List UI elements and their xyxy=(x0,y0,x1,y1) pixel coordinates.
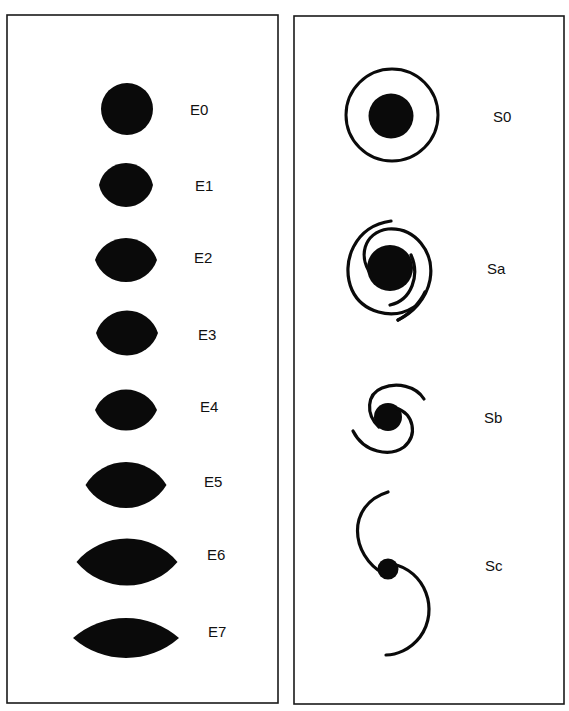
galaxy-e5-shape xyxy=(86,462,167,508)
s0-bulge xyxy=(369,94,414,139)
sa-arm-tip-bottom xyxy=(398,292,425,320)
galaxy-e2-label: E2 xyxy=(194,249,212,266)
galaxy-e0-shape xyxy=(101,83,153,135)
sc-bulge xyxy=(378,559,399,580)
galaxy-sc-label: Sc xyxy=(485,557,503,574)
elliptical-shapes xyxy=(73,83,179,658)
spiral-labels: S0SaSbSc xyxy=(484,108,511,574)
galaxy-e1-shape xyxy=(99,163,153,207)
spiral-panel: S0SaSbSc xyxy=(294,16,564,704)
galaxy-sa-shape xyxy=(348,221,431,320)
galaxy-sa-label: Sa xyxy=(487,260,506,277)
galaxy-e7-label: E7 xyxy=(208,623,226,640)
elliptical-panel: E0E1E2E3E4E5E6E7 xyxy=(7,15,278,703)
galaxy-sc-shape xyxy=(358,492,430,655)
galaxy-sb-shape xyxy=(353,385,424,452)
galaxy-e2-shape xyxy=(95,238,157,282)
galaxy-e3-label: E3 xyxy=(198,326,216,343)
galaxy-e0-label: E0 xyxy=(190,101,208,118)
galaxy-e4-label: E4 xyxy=(200,398,218,415)
galaxy-s0-label: S0 xyxy=(493,108,511,125)
galaxy-e1-label: E1 xyxy=(195,177,213,194)
galaxy-e7-shape xyxy=(73,618,179,658)
galaxy-sb-label: Sb xyxy=(484,409,502,426)
galaxy-e6-label: E6 xyxy=(207,546,225,563)
galaxy-e3-shape xyxy=(96,311,158,356)
elliptical-labels: E0E1E2E3E4E5E6E7 xyxy=(190,101,226,640)
galaxy-classification-diagram: E0E1E2E3E4E5E6E7 S xyxy=(0,0,569,711)
galaxy-e5-label: E5 xyxy=(204,473,222,490)
galaxy-s0-shape xyxy=(346,69,438,161)
galaxy-e6-shape xyxy=(77,539,178,586)
sa-bulge xyxy=(367,245,413,291)
galaxy-e4-shape xyxy=(95,390,157,431)
